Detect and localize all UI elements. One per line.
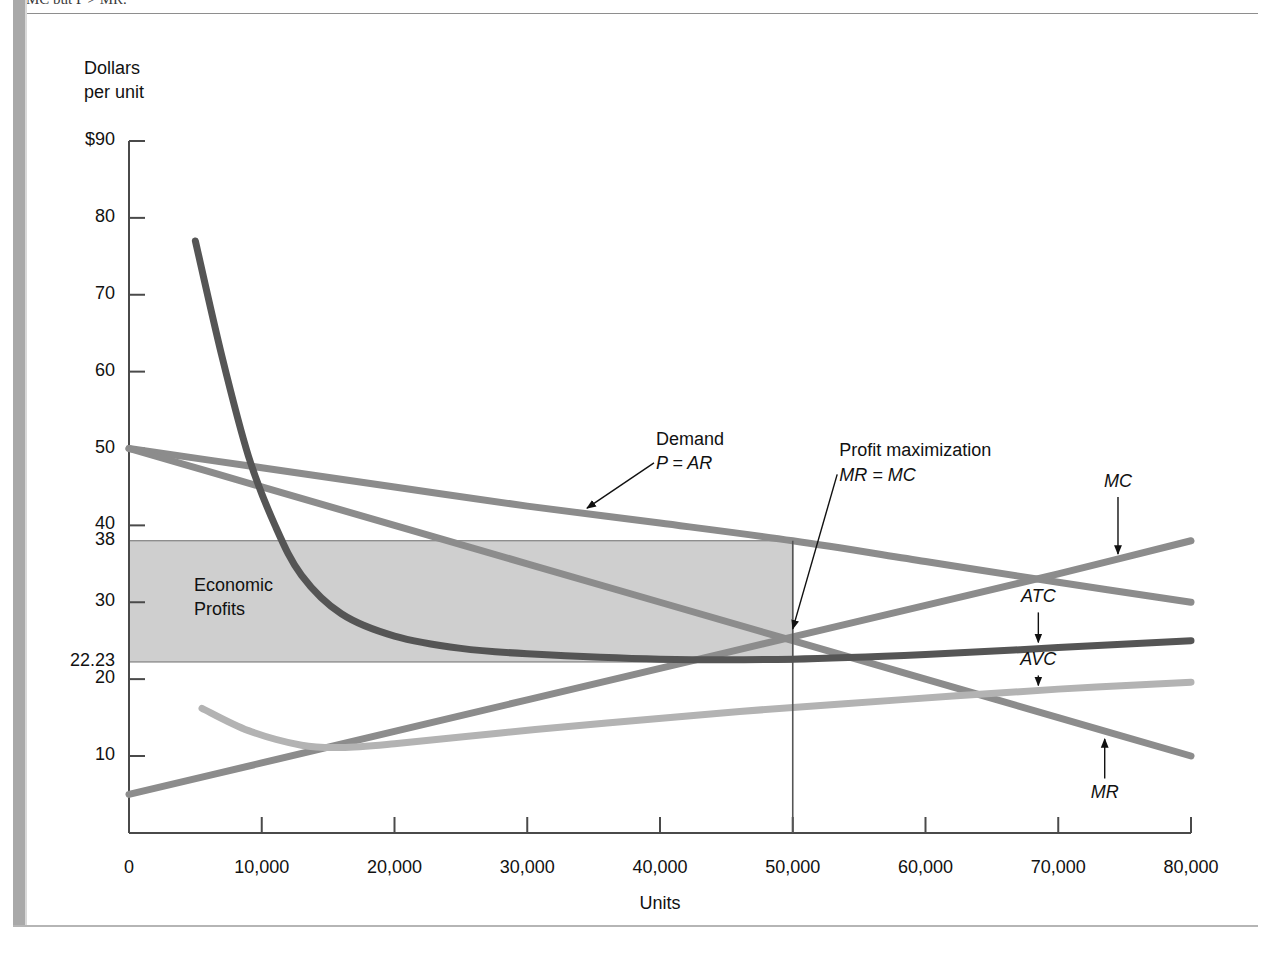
y-axis-title: Dollars per unit	[84, 56, 144, 105]
x-axis-title: Units	[600, 893, 720, 914]
profit-max-annotation-leader	[793, 474, 837, 629]
x-tick-label: 10,000	[202, 857, 322, 878]
y-tick-label: 80	[0, 206, 115, 227]
profit-max-annotation-formula: MR = MC	[839, 463, 991, 487]
profit-max-annotation-title: Profit maximization	[839, 440, 991, 460]
y-tick-label: 70	[0, 283, 115, 304]
avc-label: AVC	[988, 649, 1088, 670]
y-tick-label: 50	[0, 437, 115, 458]
y-tick-label-22-23: 22.23	[0, 650, 115, 671]
y-tick-label: 10	[0, 744, 115, 765]
x-tick-label: 50,000	[733, 857, 853, 878]
axis-layer	[129, 141, 1191, 833]
y-tick-label: $90	[0, 129, 115, 150]
atc-label: ATC	[988, 586, 1088, 607]
mc-label: MC	[1068, 471, 1168, 492]
curves-layer	[129, 241, 1191, 795]
x-tick-label: 20,000	[335, 857, 455, 878]
y-tick-label-38: 38	[0, 529, 115, 550]
y-tick-label: 30	[0, 590, 115, 611]
x-tick-label: 0	[69, 857, 189, 878]
demand-annotation: DemandP = AR	[656, 427, 724, 476]
mr-label: MR	[1055, 782, 1155, 803]
x-tick-label: 40,000	[600, 857, 720, 878]
demand-annotation-leader	[587, 463, 654, 508]
x-tick-label: 70,000	[998, 857, 1118, 878]
demand-annotation-title: Demand	[656, 429, 724, 449]
economic-profits-label: Economic Profits	[194, 573, 273, 622]
profit-max-annotation: Profit maximizationMR = MC	[839, 438, 991, 487]
x-tick-label: 60,000	[866, 857, 986, 878]
figure-page: MC but P > MR. Economic Profits102030405…	[0, 0, 1263, 955]
x-tick-label: 30,000	[467, 857, 587, 878]
y-tick-label: 60	[0, 360, 115, 381]
demand-annotation-formula: P = AR	[656, 451, 724, 475]
x-tick-label: 80,000	[1131, 857, 1251, 878]
